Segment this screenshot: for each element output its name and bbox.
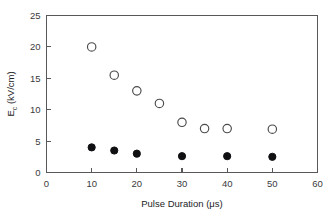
data-point-open-circles-40: 40, 7 (223, 124, 231, 132)
data-point-open-circles-20: 20, 13 (133, 87, 141, 95)
data-point-open-circles-10: 10, 20 (87, 43, 95, 51)
x-tick-label-20: 20 (132, 178, 143, 189)
data-point-open-circles-50: 50, 6.9 (268, 125, 276, 133)
data-point-filled-circles-15: 15, 3.5 (111, 147, 118, 154)
x-tick-label-60: 60 (312, 178, 323, 189)
plot-frame (47, 16, 318, 173)
y-tick-label-10: 10 (30, 104, 41, 115)
y-tick-label-25: 25 (30, 10, 41, 21)
x-tick-label-30: 30 (177, 178, 188, 189)
data-point-open-circles-30: 30, 8 (178, 118, 186, 126)
data-point-filled-circles-20: 20, 3 (133, 150, 140, 157)
data-point-open-circles-25: 25, 11 (155, 99, 163, 107)
series-open-circles: 10, 2015, 15.520, 1325, 1130, 835, 740, … (87, 43, 276, 134)
x-tick-label-50: 50 (267, 178, 278, 189)
x-tick-label-40: 40 (222, 178, 233, 189)
scatter-plot: 0102030405060051015202510, 2015, 15.520,… (0, 0, 331, 219)
data-point-filled-circles-40: 40, 2.6 (224, 153, 231, 160)
y-axis-title: Ec (kV/cm) (5, 71, 18, 116)
x-tick-label-0: 0 (44, 178, 49, 189)
data-point-open-circles-15: 15, 15.5 (110, 71, 118, 79)
y-tick-label-20: 20 (30, 41, 41, 52)
figure-container: 0102030405060051015202510, 2015, 15.520,… (0, 0, 331, 219)
data-point-open-circles-35: 35, 7 (200, 124, 208, 132)
data-point-filled-circles-50: 50, 2.5 (269, 153, 276, 160)
x-axis-title: Pulse Duration (μs) (141, 198, 223, 209)
y-tick-label-5: 5 (35, 136, 40, 147)
x-tick-label-10: 10 (86, 178, 97, 189)
y-tick-label-15: 15 (30, 73, 41, 84)
data-point-filled-circles-30: 30, 2.6 (178, 153, 185, 160)
data-point-filled-circles-10: 10, 4 (88, 144, 95, 151)
y-tick-label-0: 0 (35, 167, 40, 178)
series-filled-circles: 10, 415, 3.520, 330, 2.640, 2.650, 2.5 (88, 144, 276, 161)
